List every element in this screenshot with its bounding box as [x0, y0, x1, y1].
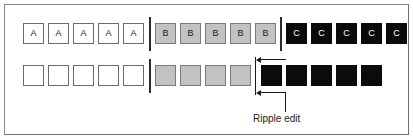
bottom-leader-line [258, 92, 286, 93]
top-leader-line [258, 59, 286, 60]
arrow-left-top-icon [256, 57, 261, 63]
figure-frame: A A A A A B B B B B C C C C C [4, 4, 409, 135]
arrow-left-bottom-icon [256, 90, 261, 96]
ripple-edit-annotation: Ripple edit [5, 5, 408, 134]
ripple-edit-label: Ripple edit [253, 113, 300, 125]
ripple-edit-figure: A A A A A B B B B B C C C C C [0, 0, 413, 139]
label-leader-line [285, 93, 286, 112]
